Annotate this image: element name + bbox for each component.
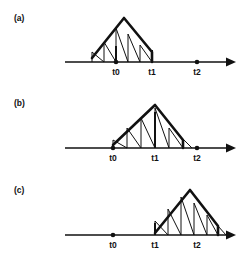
panel-a-label: (a) [14, 13, 25, 23]
panel-a-tick-label-t0: t0 [112, 67, 120, 77]
panel-b-tick-label-t1: t1 [151, 153, 159, 163]
panel-c-tick-label-t1: t1 [151, 240, 159, 250]
panel-b-tick-label-t2: t2 [193, 153, 201, 163]
panel-a-tick-label-t1: t1 [148, 67, 156, 77]
panel-b-label: (b) [14, 98, 25, 108]
panel-b-tick-label-t0: t0 [109, 153, 117, 163]
panel-c-dot-t0 [111, 233, 116, 238]
panel-b-dot-t0 [111, 146, 116, 151]
panel-b-dot-t2 [195, 146, 200, 151]
panel-c-tick-label-t0: t0 [109, 240, 117, 250]
panel-a-dot-t2 [195, 60, 200, 65]
panel-a-tick-label-t2: t2 [193, 67, 201, 77]
pulse-train-figure: (a) t0 t1 t2 (b) [0, 0, 245, 259]
panel-a-dot-t0 [114, 60, 119, 65]
panel-c-label: (c) [14, 185, 25, 195]
figure-background [0, 0, 245, 259]
panel-c-tick-label-t2: t2 [193, 240, 201, 250]
